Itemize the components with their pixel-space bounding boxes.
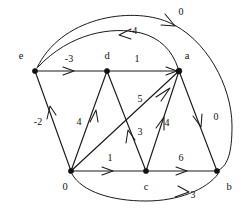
edge-weight-s-e: -2 [34,116,42,127]
edge-e-b [37,14,232,170]
edge-e-b-path [37,15,232,170]
edge-a-e [38,29,178,68]
node-dot-d[interactable] [104,68,109,73]
node-label-d: d [104,50,110,61]
edge-c-d [107,71,146,171]
edge-e-d [35,67,107,75]
node-label-s: 0 [62,181,67,192]
edge-a-b [179,71,217,171]
edge-weight-c-a: 4 [165,117,170,128]
edge-a-e-path [38,31,178,68]
graph-diagram: e d a 0 c b 0 -4 -3 1 -2 4 5 3 4 1 6 0 3 [0,0,246,208]
node-label-e: e [19,50,24,61]
edge-weight-s-a: 5 [138,93,143,104]
edge-a-b-path [179,71,217,171]
edge-d-a [107,67,179,75]
edge-weight-s-d: 4 [77,116,82,127]
edge-weight-d-a: 1 [135,53,140,64]
node-dot-e[interactable] [32,68,37,73]
edge-weight-a-b: 0 [214,111,219,122]
edge-s-b-arrowhead [175,186,189,197]
node-dot-c[interactable] [143,168,148,173]
edge-weight-s-b: 3 [191,189,196,200]
node-label-b: b [226,181,231,192]
node-label-a: a [185,50,190,61]
edge-weight-a-e: -4 [129,25,137,36]
edge-weight-e-d: -3 [65,53,73,64]
node-dot-a[interactable] [176,68,182,74]
edge-weight-c-b: 6 [179,152,184,163]
edge-weight-s-c: 1 [108,152,113,163]
edge-c-b [146,167,217,175]
edge-weight-c-d: 3 [138,126,143,137]
graph-canvas: e d a 0 c b 0 -4 -3 1 -2 4 5 3 4 1 6 0 3 [0,0,246,208]
edge-c-d-path [107,71,146,171]
edge-s-c [71,167,146,175]
node-dot-s[interactable] [68,168,73,173]
edge-weight-e-b: 0 [179,6,184,17]
node-label-c: c [144,181,149,192]
node-dot-b[interactable] [214,168,219,173]
